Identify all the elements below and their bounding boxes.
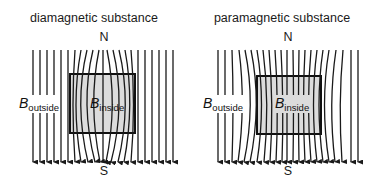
paramagnetic-panel: paramagnetic substance N S bbox=[188, 0, 376, 188]
b-outside-label: Boutside bbox=[18, 95, 60, 113]
b-inside-label: Binside bbox=[274, 95, 310, 113]
diamagnetic-panel: diamagnetic substance N S bbox=[0, 0, 188, 188]
b-inside-label: Binside bbox=[90, 95, 124, 113]
b-outside-label: Boutside bbox=[202, 95, 244, 113]
paramagnetic-field-lines bbox=[188, 0, 376, 188]
diamagnetic-field-lines bbox=[0, 0, 188, 188]
